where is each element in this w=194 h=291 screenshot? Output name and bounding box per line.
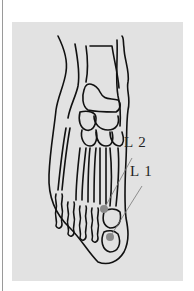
acupoint-l1 (106, 233, 114, 241)
acupoint-l2 (100, 205, 108, 213)
point-label-l2: L 2 (124, 134, 147, 151)
foot-skeleton-illustration (0, 0, 194, 291)
point-label-l1: L 1 (130, 163, 153, 180)
